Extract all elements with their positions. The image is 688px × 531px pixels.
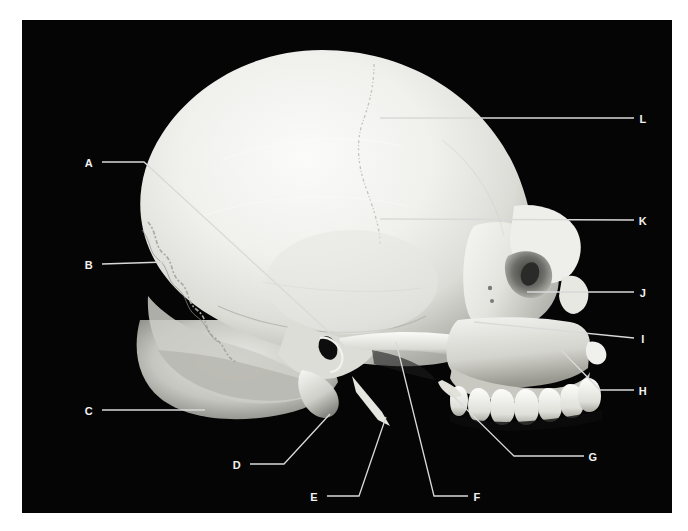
infraorbital-foramen (488, 286, 492, 290)
label-g: G (586, 452, 600, 463)
label-c: C (82, 406, 96, 417)
anatomy-figure: ABCDEFGHIJKL (0, 0, 688, 531)
label-e: E (307, 492, 321, 503)
label-d: D (230, 460, 244, 471)
label-l: L (636, 114, 650, 125)
label-b: B (82, 260, 96, 271)
skull-photograph: ABCDEFGHIJKL (22, 20, 672, 513)
label-f: F (470, 492, 484, 503)
label-a: A (82, 158, 96, 169)
tooth-premolar-2 (514, 389, 539, 425)
tooth-molar-1 (490, 389, 515, 425)
label-i: I (636, 334, 650, 345)
label-h: H (636, 386, 650, 397)
zygomaticofacial-foramen (490, 299, 494, 303)
skull-illustration (22, 20, 672, 513)
temporal-fossa (266, 230, 438, 334)
label-j: J (636, 288, 650, 299)
label-k: K (636, 216, 650, 227)
